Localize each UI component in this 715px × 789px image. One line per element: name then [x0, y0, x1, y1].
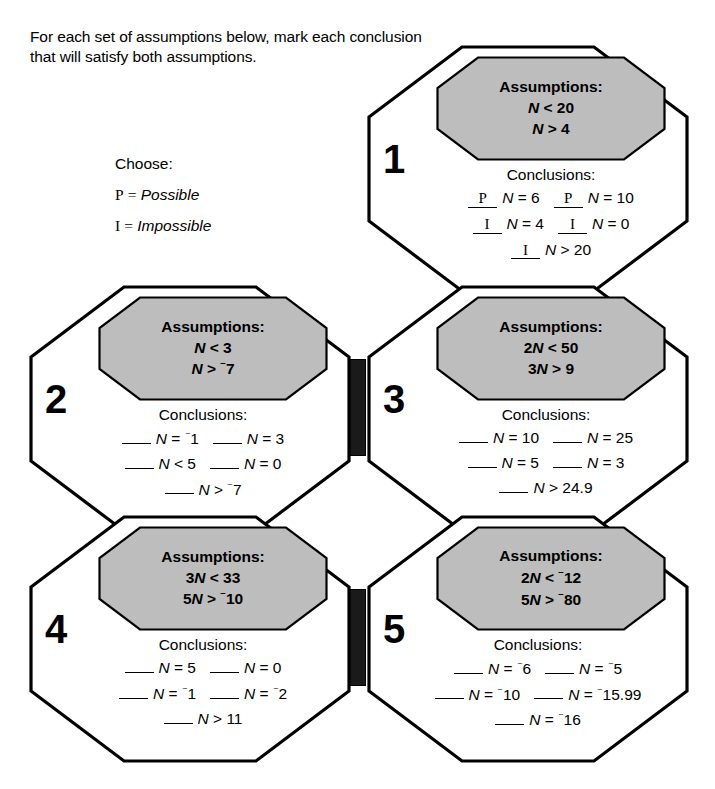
cell-4-conclusion-1[interactable]: N = 5 [125, 659, 197, 677]
cell-2-number: 2 [45, 379, 66, 419]
cell-5-statement-3: N = ⁻10 [469, 685, 521, 704]
cell-3-assumptions-heading: Assumptions: [499, 318, 602, 336]
cell-4-answer-blank-4[interactable] [210, 698, 239, 699]
cell-4-answer-blank-1[interactable] [125, 672, 154, 673]
cell-2-statement-4: N = 0 [244, 455, 282, 473]
cell-4-conclusion-4[interactable]: N = ⁻2 [210, 684, 287, 703]
cell-5-assumptions-shape: Assumptions: 2N < ⁻12 5N > ⁻80 [436, 526, 666, 631]
cell-4-answer-blank-3[interactable] [119, 698, 148, 699]
cell-1-conclusion-1[interactable]: P N = 6 [468, 189, 540, 208]
cell-5-conclusion-3[interactable]: N = ⁻10 [435, 685, 521, 704]
cell-2-assumptions-text: Assumptions: N < 3 N > ⁻7 [98, 296, 328, 401]
cell-4-answer-blank-2[interactable] [210, 672, 239, 673]
cell-2-answer-blank-2[interactable] [213, 443, 242, 444]
cell-5-conclusion-2[interactable]: N = ⁻5 [545, 659, 622, 678]
cell-3-conclusions: Conclusions: N = 10 N = 25 N = 5 N = 3 [418, 406, 674, 504]
legend-word-possible: Possible [141, 186, 200, 203]
cell-1-answer-blank-1[interactable]: P [468, 191, 497, 208]
cell-5-statement-5: N = ⁻16 [529, 710, 581, 729]
cell-5-answer-blank-1[interactable] [454, 673, 483, 674]
cell-2-conclusion-row-1: N = ⁻1 N = 3 [70, 429, 336, 448]
cell-2-conclusion-3[interactable]: N < 5 [125, 455, 197, 473]
cell-5-answer-blank-4[interactable] [534, 698, 563, 699]
cell-2-answer-blank-5[interactable] [165, 493, 194, 494]
cell-4-conclusion-row-1: N = 5 N = 0 [70, 659, 336, 677]
cell-1-conclusions-heading: Conclusions: [428, 166, 674, 184]
cell-4-assumptions-text: Assumptions: 3N < 33 5N > ⁻10 [98, 526, 328, 631]
cell-3-statement-1: N = 10 [493, 429, 539, 447]
cell-3-answer-blank-2[interactable] [553, 442, 582, 443]
cell-3-conclusion-4[interactable]: N = 3 [553, 454, 625, 472]
cell-2-assumptions-heading: Assumptions: [161, 318, 264, 336]
cell-1-answer-blank-3[interactable]: I [473, 217, 502, 234]
cell-3-answer-blank-4[interactable] [553, 467, 582, 468]
legend-word-impossible: Impossible [137, 217, 211, 234]
cell-1-conclusion-4[interactable]: I N = 0 [558, 215, 630, 234]
cell-1-conclusions: Conclusions: P N = 6 P N = 10 I N = 4 I … [428, 166, 674, 266]
cell-2-conclusion-row-2: N < 5 N = 0 [70, 455, 336, 473]
cell-1-answer-blank-2[interactable]: P [554, 191, 583, 208]
legend-item-possible: P = Possible [115, 186, 345, 204]
cell-4-number: 4 [45, 609, 66, 649]
cell-1-conclusion-row-2: I N = 4 I N = 0 [428, 215, 674, 234]
assumption-cell-3: 3 Assumptions: 2N < 50 3N > 9 Conclusion… [366, 284, 690, 534]
cell-3-assumptions-shape: Assumptions: 2N < 50 3N > 9 [436, 296, 666, 401]
cell-1-conclusion-5[interactable]: I N > 20 [511, 241, 591, 260]
cell-1-answer-blank-5[interactable]: I [511, 243, 540, 260]
cell-3-number: 3 [383, 379, 404, 419]
assumption-cell-1: 1 Assumptions: N < 20 N > 4 Conclusions:… [366, 44, 690, 294]
cell-4-statement-1: N = 5 [159, 659, 197, 677]
cell-5-answer-blank-5[interactable] [495, 724, 524, 725]
cell-3-conclusion-2[interactable]: N = 25 [553, 429, 633, 447]
cell-5-assumptions-heading: Assumptions: [499, 547, 602, 565]
assumption-cell-2: 2 Assumptions: N < 3 N > ⁻7 Conclusions:… [28, 284, 352, 534]
cell-1-assumptions-text: Assumptions: N < 20 N > 4 [436, 56, 666, 161]
cell-4-assumption-line-1: 3N < 33 [186, 568, 241, 588]
cell-2-answer-blank-1[interactable] [122, 443, 151, 444]
cell-4-answer-blank-5[interactable] [164, 723, 193, 724]
cell-1-statement-4: N = 0 [592, 215, 630, 233]
assumption-cell-4: 4 Assumptions: 3N < 33 5N > ⁻10 Conclusi… [28, 514, 352, 764]
cell-5-answer-blank-3[interactable] [435, 698, 464, 699]
cell-4-conclusions-heading: Conclusions: [70, 636, 336, 654]
cell-3-assumption-line-1: 2N < 50 [524, 338, 579, 358]
cell-4-statement-2: N = 0 [244, 659, 282, 677]
cell-2-conclusion-1[interactable]: N = ⁻1 [122, 429, 199, 448]
cell-3-answer-blank-5[interactable] [499, 492, 528, 493]
cell-3-conclusion-5[interactable]: N > 24.9 [499, 479, 592, 497]
legend-code-i: I [115, 217, 120, 234]
cell-4-assumption-line-2: 5N > ⁻10 [183, 588, 243, 609]
cell-3-answer-blank-1[interactable] [459, 442, 488, 443]
cell-2-answer-blank-4[interactable] [210, 468, 239, 469]
cell-5-conclusion-1[interactable]: N = ⁻6 [454, 659, 531, 678]
cell-2-conclusion-4[interactable]: N = 0 [210, 455, 282, 473]
cell-5-answer-blank-2[interactable] [545, 673, 574, 674]
cell-3-statement-3: N = 5 [502, 454, 540, 472]
legend-title: Choose: [115, 155, 345, 173]
cell-3-answer-blank-3[interactable] [468, 467, 497, 468]
cell-4-conclusion-2[interactable]: N = 0 [210, 659, 282, 677]
cell-2-conclusion-2[interactable]: N = 3 [213, 430, 285, 448]
cell-3-conclusion-1[interactable]: N = 10 [459, 429, 539, 447]
cell-3-conclusion-row-2: N = 5 N = 3 [418, 454, 674, 472]
cell-4-conclusion-row-2: N = ⁻1 N = ⁻2 [70, 684, 336, 703]
cell-5-assumption-line-1: 2N < ⁻12 [521, 567, 581, 588]
cell-1-assumption-line-1: N < 20 [528, 98, 574, 118]
cell-4-conclusion-3[interactable]: N = ⁻1 [119, 684, 196, 703]
cell-2-conclusion-5[interactable]: N > ⁻7 [165, 480, 242, 499]
cell-4-conclusion-5[interactable]: N > 11 [164, 710, 243, 728]
cell-3-conclusion-3[interactable]: N = 5 [468, 454, 540, 472]
cell-2-conclusions: Conclusions: N = ⁻1 N = 3 N < 5 N = 0 [70, 406, 336, 505]
cell-3-statement-5: N > 24.9 [533, 479, 592, 497]
cell-2-answer-blank-3[interactable] [125, 468, 154, 469]
cell-2-statement-1: N = ⁻1 [156, 429, 199, 448]
cell-1-answer-blank-4[interactable]: I [558, 217, 587, 234]
cell-5-conclusion-4[interactable]: N = ⁻15.99 [534, 685, 641, 704]
cell-4-statement-3: N = ⁻1 [153, 684, 196, 703]
cell-1-assumptions-heading: Assumptions: [499, 78, 602, 96]
cell-1-assumptions-shape: Assumptions: N < 20 N > 4 [436, 56, 666, 161]
cell-1-conclusion-2[interactable]: P N = 10 [554, 189, 634, 208]
cell-1-conclusion-3[interactable]: I N = 4 [473, 215, 545, 234]
cell-5-conclusion-5[interactable]: N = ⁻16 [495, 710, 581, 729]
cell-5-statement-4: N = ⁻15.99 [568, 685, 641, 704]
